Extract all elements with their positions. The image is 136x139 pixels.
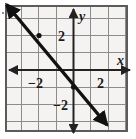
x-axis-label: x (116, 53, 124, 68)
plot-point-marker (71, 84, 76, 89)
y-tick-label-negative-2: −2 (53, 98, 68, 113)
y-tick-label-positive-2: 2 (58, 29, 65, 44)
plot-point-marker (36, 33, 41, 38)
x-tick-label-negative-2: −2 (28, 76, 43, 91)
y-axis-label: y (77, 9, 86, 24)
coordinate-plane: y x 2 −2 −2 2 (0, 0, 136, 139)
x-tick-label-positive-2: 2 (97, 76, 104, 91)
figure-container: y x 2 −2 −2 2 (0, 0, 136, 139)
